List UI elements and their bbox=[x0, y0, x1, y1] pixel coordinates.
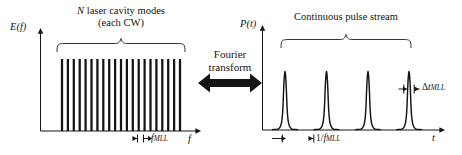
pulse-width-subscript: MLL bbox=[431, 84, 445, 92]
left-panel-title: N laser cavity modes (each CW) bbox=[57, 5, 185, 29]
right-axes bbox=[263, 30, 441, 130]
pulse-4 bbox=[396, 72, 422, 130]
right-y-axis-paren-close: ) bbox=[253, 18, 257, 29]
mode-spacing-subscript: MLL bbox=[154, 135, 168, 143]
fourier-line1: Fourier bbox=[214, 48, 246, 60]
right-x-axis-label: t bbox=[432, 132, 435, 144]
left-x-axis-label: f bbox=[188, 133, 191, 145]
right-brace bbox=[281, 35, 411, 49]
pulse-stream bbox=[272, 72, 422, 130]
right-panel-title: Continuous pulse stream bbox=[281, 11, 411, 23]
cavity-mode-comb bbox=[62, 59, 180, 131]
pulse-3 bbox=[355, 72, 381, 130]
left-y-axis-paren-close: ) bbox=[23, 21, 27, 32]
pulse-period-subscript: MLL bbox=[326, 135, 340, 143]
left-axes bbox=[41, 33, 197, 131]
pulse-2 bbox=[314, 72, 340, 130]
pulse-width-measure bbox=[399, 85, 420, 94]
pulse-period-label: 1/fMLL bbox=[316, 133, 340, 144]
left-brace bbox=[57, 39, 185, 53]
mode-spacing-label: fMLL bbox=[151, 133, 168, 144]
right-y-axis-label: P(t) bbox=[240, 18, 256, 30]
fourier-transform-label: Fourier transform bbox=[196, 48, 264, 75]
left-title-line2: (each CW) bbox=[98, 17, 144, 28]
pulse-1 bbox=[272, 72, 298, 130]
left-spacing-measure bbox=[133, 135, 149, 143]
left-y-axis-label: E(f) bbox=[10, 21, 26, 33]
left-title-rest: laser cavity modes bbox=[84, 5, 165, 16]
figure-canvas: N laser cavity modes (each CW) E(f) f fM… bbox=[0, 0, 462, 155]
pulse-width-label: ΔtMLL bbox=[422, 82, 445, 93]
fourier-line2: transform bbox=[209, 61, 252, 73]
period-measure bbox=[272, 135, 314, 143]
fourier-transform-arrow bbox=[198, 74, 262, 93]
